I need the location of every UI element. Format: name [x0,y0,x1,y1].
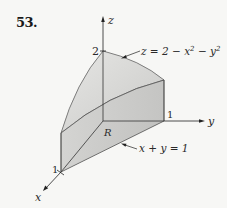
region-label: R [103,127,112,138]
boundary-line-equation: x + y = 1 [139,142,188,154]
x-axis-label: x [35,191,42,204]
z-tick-label: 2 [92,45,99,58]
y-tick-label: 1 [167,109,173,120]
solid-diagram: z 2 y 1 x 1 R z = 2 − x2 − y2 [0,0,227,208]
x-tick-label: 1 [52,164,58,175]
surface-eq-mid: − y [195,45,217,57]
y-axis-label: y [207,115,215,128]
boundary-annotation: x + y = 1 [121,142,188,154]
z-axis-label: z [107,14,114,27]
surface-eq-exp2: 2 [215,45,221,53]
surface-eq-lhs: z = 2 − x [140,45,190,57]
svg-text:z = 2 − x2 − y2: z = 2 − x2 − y2 [140,45,221,57]
surface-annotation: z = 2 − x2 − y2 [121,45,221,59]
problem-number: 53. [16,15,37,30]
figure: 53. [0,0,227,208]
z-axis [100,16,106,51]
